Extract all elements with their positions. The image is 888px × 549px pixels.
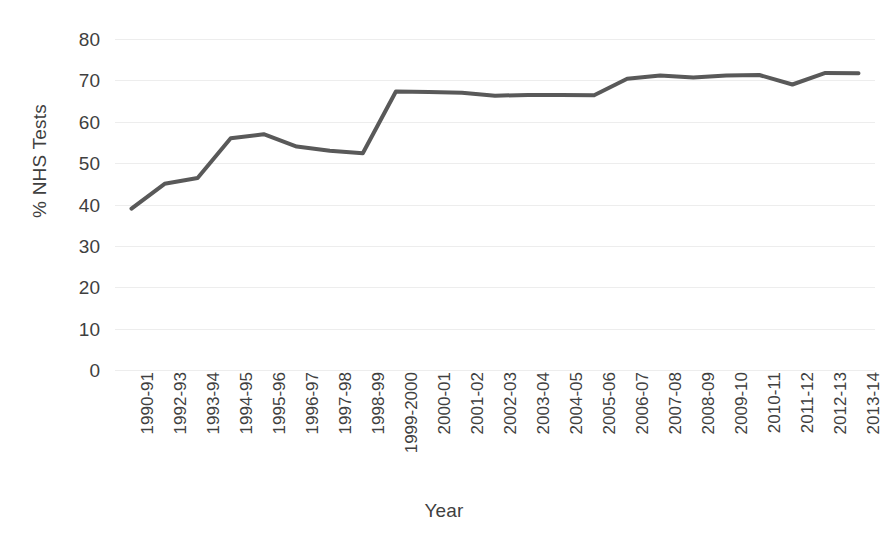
x-tick-label: 1994-95 [238,372,255,492]
x-tick-label: 2001-02 [469,372,486,492]
series-polyline [132,73,859,209]
x-tick-label: 1999-2000 [403,372,420,492]
x-tick-label: 2005-06 [601,372,618,492]
x-tick-label: 1992-93 [172,372,189,492]
x-tick-label: 2004-05 [568,372,585,492]
plot-area [115,39,875,370]
x-tick-label: 1990-91 [139,372,156,492]
y-tick-label: 10 [54,320,100,339]
x-tick-label: 2003-04 [535,372,552,492]
y-tick-label: 20 [54,278,100,297]
x-tick-label: 2011-12 [799,372,816,492]
x-axis-tick-labels: 1990-911992-931993-941994-951995-961996-… [0,372,888,502]
y-tick-label: 30 [54,237,100,256]
series-line [115,39,875,370]
x-tick-label: 2013-14 [865,372,882,492]
x-tick-label: 2007-08 [667,372,684,492]
x-tick-label: 2000-01 [436,372,453,492]
x-tick-label: 1998-99 [370,372,387,492]
y-tick-label: 40 [54,196,100,215]
y-tick-label: 60 [54,113,100,132]
x-tick-label: 2002-03 [502,372,519,492]
y-tick-label: 80 [54,30,100,49]
x-axis-title: Year [0,500,888,522]
line-chart: % NHS Tests 80706050403020100 1990-91199… [0,0,888,549]
x-tick-label: 1996-97 [304,372,321,492]
x-tick-label: 2012-13 [832,372,849,492]
x-tick-label: 2006-07 [634,372,651,492]
y-tick-label: 70 [54,71,100,90]
gridline [115,370,875,371]
x-tick-label: 1993-94 [205,372,222,492]
y-tick-label: 50 [54,154,100,173]
x-tick-label: 1995-96 [271,372,288,492]
x-tick-label: 1997-98 [337,372,354,492]
x-tick-label: 2008-09 [700,372,717,492]
y-axis-title: % NHS Tests [29,51,51,271]
x-tick-label: 2009-10 [733,372,750,492]
x-tick-label: 2010-11 [766,372,783,492]
